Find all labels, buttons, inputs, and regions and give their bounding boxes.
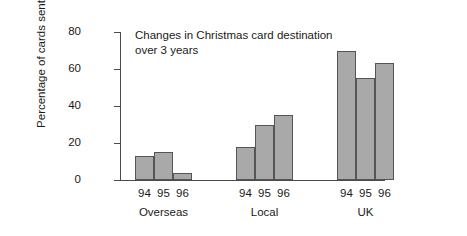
group-label: Local [206, 207, 323, 219]
chart-frame: Percentage of cards sent Changes in Chri… [11, 10, 455, 222]
group-label: UK [307, 207, 424, 219]
x-axis-line [120, 180, 385, 181]
y-tick-label: 0 [41, 174, 81, 186]
bar-year-label: 94 [135, 188, 154, 200]
bar-year-label: 94 [236, 188, 255, 200]
y-tick-mark [114, 106, 121, 107]
bar [173, 173, 192, 180]
bar-year-label: 95 [255, 188, 274, 200]
chart-title: Changes in Christmas card destination ov… [135, 28, 333, 58]
y-tick-mark [114, 180, 121, 181]
bar [337, 51, 356, 181]
bar-year-label: 95 [154, 188, 173, 200]
bar [236, 147, 255, 180]
bar-year-label: 96 [375, 188, 394, 200]
y-tick-label: 20 [41, 137, 81, 149]
bar [274, 115, 293, 180]
plot-area: Percentage of cards sent Changes in Chri… [11, 10, 455, 222]
y-tick-label: 40 [41, 100, 81, 112]
bar [356, 78, 375, 180]
y-tick-mark [114, 69, 121, 70]
y-tick-mark [114, 143, 121, 144]
bar [255, 125, 274, 181]
bar [154, 152, 173, 180]
y-tick-label: 80 [41, 26, 81, 38]
bar-year-label: 96 [173, 188, 192, 200]
bar-year-label: 95 [356, 188, 375, 200]
bar-year-label: 94 [337, 188, 356, 200]
figure: Percentage of cards sent Changes in Chri… [0, 0, 467, 236]
y-tick-mark [114, 32, 121, 33]
bar-year-label: 96 [274, 188, 293, 200]
bar [135, 156, 154, 180]
group-label: Overseas [105, 207, 222, 219]
bar [375, 63, 394, 180]
y-tick-label: 60 [41, 63, 81, 75]
